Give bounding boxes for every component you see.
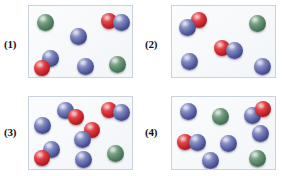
panel-box-3 — [28, 96, 133, 170]
red-atom — [34, 150, 50, 166]
panel-cell-4: (4) — [141, 88, 282, 176]
red-atom — [34, 60, 50, 76]
blue-atom — [179, 19, 196, 36]
green-atom — [249, 150, 266, 167]
blue-atom — [254, 58, 271, 75]
panel-grid: (1) (2) (3) (4) — [0, 0, 282, 176]
red-atom — [255, 101, 271, 117]
blue-atom — [252, 125, 269, 142]
panel-box-2 — [171, 5, 276, 78]
blue-atom — [180, 103, 197, 120]
blue-atom — [189, 134, 206, 151]
green-atom — [107, 145, 124, 162]
blue-atom — [75, 151, 92, 168]
blue-atom — [34, 117, 51, 134]
blue-atom — [181, 53, 198, 70]
blue-atom — [113, 104, 130, 121]
green-atom — [37, 14, 54, 31]
red-atom — [68, 109, 84, 125]
panel-box-4 — [171, 96, 276, 170]
blue-atom — [226, 42, 243, 59]
blue-atom — [202, 152, 219, 169]
blue-atom — [113, 14, 130, 31]
panel-label-4: (4) — [145, 126, 157, 138]
panel-box-1 — [28, 5, 133, 78]
blue-atom — [70, 28, 87, 45]
panel-cell-1: (1) — [0, 0, 141, 88]
blue-atom — [77, 58, 94, 75]
green-atom — [212, 108, 229, 125]
blue-atom — [74, 131, 91, 148]
panel-cell-3: (3) — [0, 88, 141, 176]
panel-label-3: (3) — [4, 126, 16, 138]
panel-cell-2: (2) — [141, 0, 282, 88]
green-atom — [109, 56, 126, 73]
panel-label-2: (2) — [145, 38, 157, 50]
green-atom — [249, 15, 266, 32]
panel-label-1: (1) — [4, 38, 16, 50]
blue-atom — [220, 135, 237, 152]
